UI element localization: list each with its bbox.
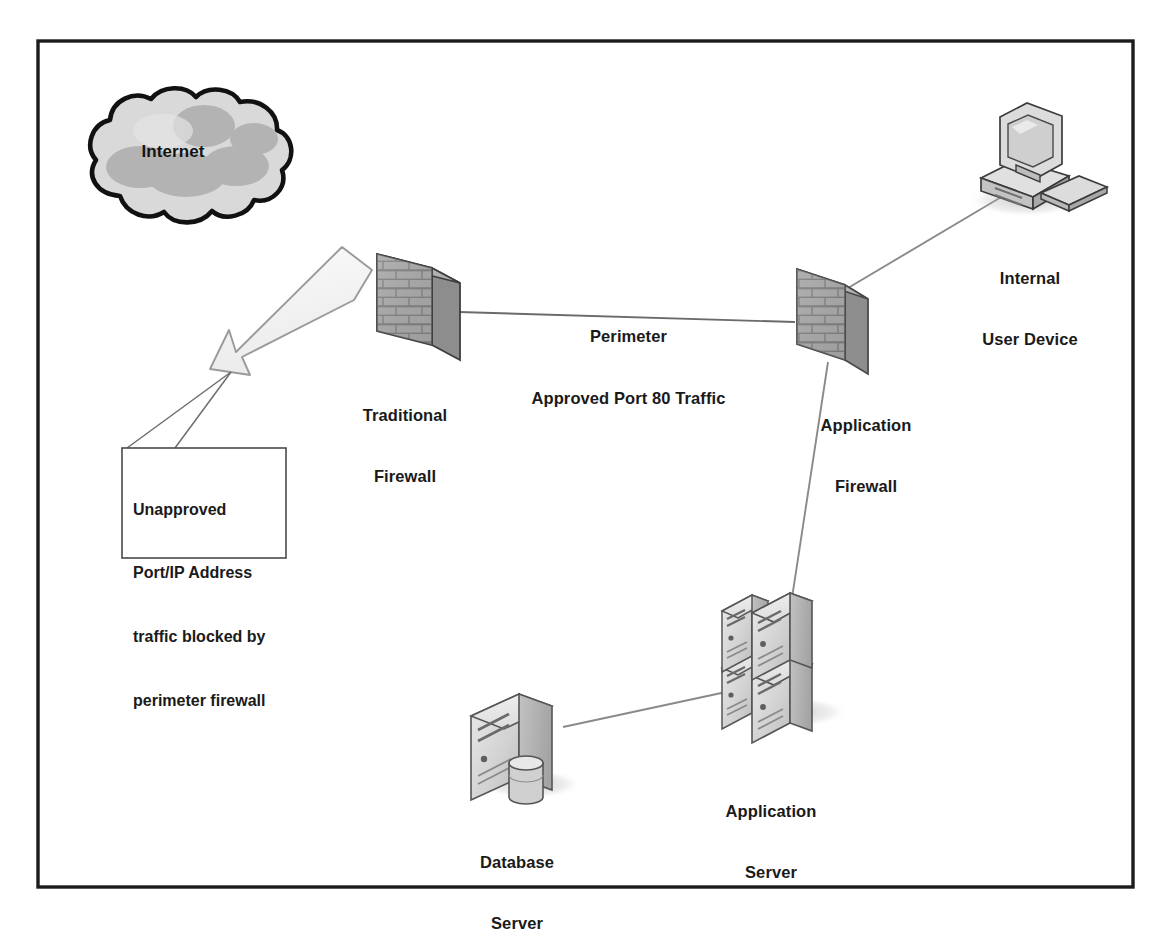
application-server-label-line2: Server xyxy=(706,862,836,882)
connection-label-perimeter: Perimeter Approved Port 80 Traffic xyxy=(487,285,770,450)
connection-label-line1: Perimeter xyxy=(487,326,770,347)
internal-user-device-label-line1: Internal xyxy=(970,268,1090,288)
application-firewall-label-line1: Application xyxy=(803,415,929,435)
internal-user-device-label: Internal User Device xyxy=(970,228,1090,389)
callout-text: Unapproved Port/IP Address traffic block… xyxy=(133,456,283,754)
traditional-firewall-label: Traditional Firewall xyxy=(345,365,465,526)
callout-line-1: Unapproved xyxy=(133,499,283,520)
application-firewall-label: Application Firewall xyxy=(803,375,929,536)
application-server-label: Application Server xyxy=(706,761,836,922)
database-server-label-line2: Server xyxy=(454,913,580,933)
traditional-firewall-label-line1: Traditional xyxy=(345,405,465,425)
application-server-label-line1: Application xyxy=(706,801,836,821)
callout-line-3: traffic blocked by xyxy=(133,626,283,647)
cloud-label: Internet xyxy=(118,142,228,163)
application-firewall-label-line2: Firewall xyxy=(803,476,929,496)
internal-user-device-label-line2: User Device xyxy=(970,329,1090,349)
callout-line-2: Port/IP Address xyxy=(133,562,283,583)
database-server-label-line1: Database xyxy=(454,852,580,872)
traditional-firewall-label-line2: Firewall xyxy=(345,466,465,486)
callout-line-4: perimeter firewall xyxy=(133,690,283,711)
database-server-label: Database Server xyxy=(454,812,580,933)
connection-label-line2: Approved Port 80 Traffic xyxy=(487,388,770,409)
